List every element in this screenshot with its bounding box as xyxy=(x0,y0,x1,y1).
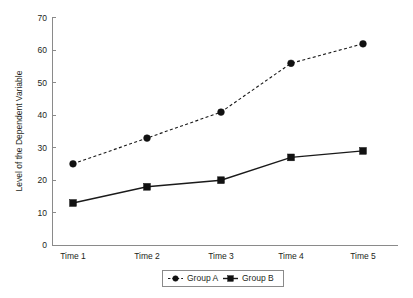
chart-legend: Group A Group B xyxy=(163,271,284,287)
y-tick-label: 40 xyxy=(38,110,48,120)
series-group-b xyxy=(70,148,367,207)
x-tick-label-time-5: Time 5 xyxy=(350,251,376,261)
y-tick-label: 70 xyxy=(38,13,48,23)
x-tick-label-time-2: Time 2 xyxy=(134,251,160,261)
series-group-a xyxy=(70,40,367,167)
series-a-point xyxy=(218,109,225,116)
y-tick-label: 60 xyxy=(38,45,48,55)
y-tick-label: 50 xyxy=(38,78,48,88)
series-a-line xyxy=(73,44,363,164)
series-b-point xyxy=(360,148,367,155)
x-tick-label-time-3: Time 3 xyxy=(208,251,234,261)
series-b-point xyxy=(70,200,77,207)
series-a-point xyxy=(144,135,151,142)
line-chart: 70 60 50 40 30 20 10 0 Level of the Depe… xyxy=(0,0,413,298)
y-tick-label: 0 xyxy=(42,240,47,250)
y-tick-label: 20 xyxy=(38,175,48,185)
series-b-point xyxy=(144,183,151,190)
y-axis-ticks xyxy=(53,18,57,246)
legend-label-group-b: Group B xyxy=(242,273,274,283)
circle-marker-icon xyxy=(173,276,179,282)
series-a-point xyxy=(288,60,295,67)
series-a-point xyxy=(70,160,77,167)
x-axis-tick-labels: Time 1 Time 2 Time 3 Time 4 Time 5 xyxy=(60,251,376,261)
legend-label-group-a: Group A xyxy=(187,273,219,283)
series-b-point xyxy=(288,154,295,161)
y-tick-label: 10 xyxy=(38,208,48,218)
chart-canvas: 70 60 50 40 30 20 10 0 Level of the Depe… xyxy=(0,0,413,298)
series-a-point xyxy=(360,40,367,47)
series-b-point xyxy=(218,177,225,184)
y-axis-title: Level of the Dependent Variable xyxy=(14,70,24,191)
y-tick-label: 30 xyxy=(38,143,48,153)
x-tick-label-time-4: Time 4 xyxy=(278,251,304,261)
square-marker-icon xyxy=(228,276,234,282)
x-tick-label-time-1: Time 1 xyxy=(60,251,86,261)
y-axis-tick-labels: 70 60 50 40 30 20 10 0 xyxy=(38,13,48,251)
